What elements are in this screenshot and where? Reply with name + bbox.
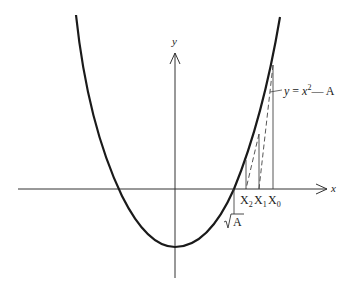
y-axis-label: y: [172, 36, 177, 47]
parabola-curve: [76, 15, 280, 247]
curve-equation-label: y = x2— A: [284, 84, 334, 97]
newton-sqrt-diagram: y x y = x2— A X2 X1 X0 A: [0, 0, 352, 287]
x0-sub: 0: [277, 200, 281, 209]
x2-base: X: [240, 193, 249, 207]
sqrt-a-label: A: [233, 216, 242, 228]
eq-minus-a: — A: [311, 84, 334, 98]
x0-base: X: [268, 193, 277, 207]
x-axis-label: x: [331, 183, 336, 194]
eq-equals: =: [292, 84, 299, 98]
iterate-x2-label: X2: [240, 194, 253, 209]
x1-base: X: [254, 193, 263, 207]
tangent-x1: [246, 134, 259, 189]
x2-sub: 2: [249, 200, 253, 209]
iterate-x0-label: X0: [268, 194, 281, 209]
x1-sub: 1: [263, 200, 267, 209]
equation-leader: [270, 90, 282, 92]
eq-y: y: [284, 84, 289, 98]
iterate-x1-label: X1: [254, 194, 267, 209]
